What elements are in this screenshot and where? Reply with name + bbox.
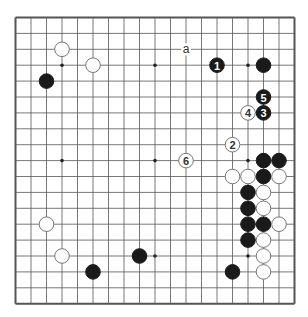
black-stone bbox=[272, 153, 287, 168]
black-stone bbox=[256, 217, 271, 232]
star-point bbox=[60, 159, 64, 163]
go-board: a 154326 bbox=[0, 0, 308, 317]
star-point bbox=[153, 159, 157, 163]
black-stone bbox=[241, 217, 256, 232]
move-number: 6 bbox=[183, 155, 189, 167]
white-stone bbox=[86, 58, 101, 73]
black-stone bbox=[256, 169, 271, 184]
white-stone bbox=[39, 217, 54, 232]
star-point bbox=[246, 254, 250, 258]
move-number: 4 bbox=[245, 107, 252, 119]
black-stone bbox=[132, 249, 147, 264]
black-stone bbox=[256, 153, 271, 168]
star-point bbox=[60, 63, 64, 67]
white-stone bbox=[256, 265, 271, 280]
move-number: 2 bbox=[229, 139, 235, 151]
black-stone bbox=[86, 265, 101, 280]
star-point bbox=[153, 63, 157, 67]
black-stone bbox=[241, 185, 256, 200]
black-stone bbox=[241, 201, 256, 216]
black-stone bbox=[256, 58, 271, 73]
white-stone bbox=[256, 201, 271, 216]
white-stone bbox=[241, 169, 256, 184]
move-number: 1 bbox=[214, 60, 220, 72]
white-stone bbox=[256, 185, 271, 200]
star-point bbox=[246, 63, 250, 67]
star-point bbox=[246, 159, 250, 163]
white-stone bbox=[55, 42, 70, 57]
white-stone bbox=[256, 249, 271, 264]
white-stone bbox=[272, 217, 287, 232]
white-stone bbox=[256, 233, 271, 248]
move-number: 3 bbox=[260, 107, 266, 119]
black-stone bbox=[241, 233, 256, 248]
black-stone bbox=[225, 265, 240, 280]
move-number: 5 bbox=[260, 92, 266, 104]
white-stone bbox=[272, 169, 287, 184]
black-stone bbox=[39, 74, 54, 89]
marker-label: a bbox=[183, 42, 190, 56]
star-point bbox=[153, 254, 157, 258]
board-markers: a bbox=[181, 42, 191, 56]
white-stone bbox=[225, 169, 240, 184]
white-stone bbox=[55, 249, 70, 264]
